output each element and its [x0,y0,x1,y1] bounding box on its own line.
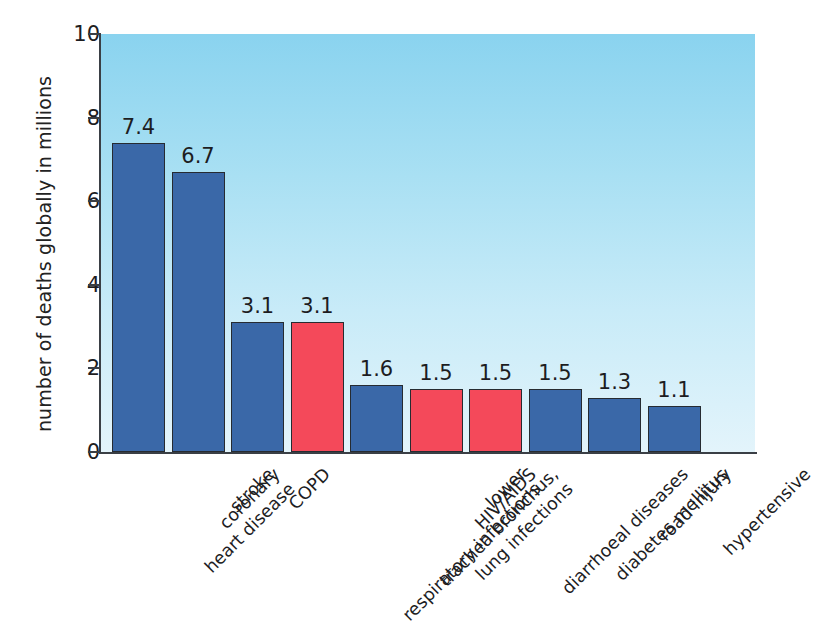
y-tick-mark [88,451,100,453]
y-axis-title: number of deaths globally in millions [33,44,55,464]
bar-value-label: 3.1 [241,294,274,318]
y-tick-mark [88,33,100,35]
bar[interactable] [172,172,225,452]
y-tick-mark [88,117,100,119]
bar-value-label: 1.5 [419,361,452,385]
bar[interactable] [469,389,522,452]
bar-value-label: 1.1 [657,378,690,402]
x-axis-label: coronaryheart disease [185,464,298,577]
y-tick-mark [88,200,100,202]
bar-value-label: 1.5 [538,361,571,385]
x-axis-line [99,452,757,454]
bar-value-label: 3.1 [300,294,333,318]
bar[interactable] [529,389,582,452]
y-tick-mark [88,367,100,369]
bar[interactable] [588,398,641,452]
bar-value-label: 1.3 [598,370,631,394]
bar-value-label: 6.7 [181,144,214,168]
bar[interactable] [350,385,403,452]
bar[interactable] [648,406,701,452]
bar-value-label: 7.4 [122,115,155,139]
bar-value-label: 1.5 [479,361,512,385]
y-tick-mark [88,284,100,286]
bar[interactable] [112,143,165,452]
bar[interactable] [291,322,344,452]
bar-value-label: 1.6 [360,357,393,381]
bar[interactable] [231,322,284,452]
bar[interactable] [410,389,463,452]
